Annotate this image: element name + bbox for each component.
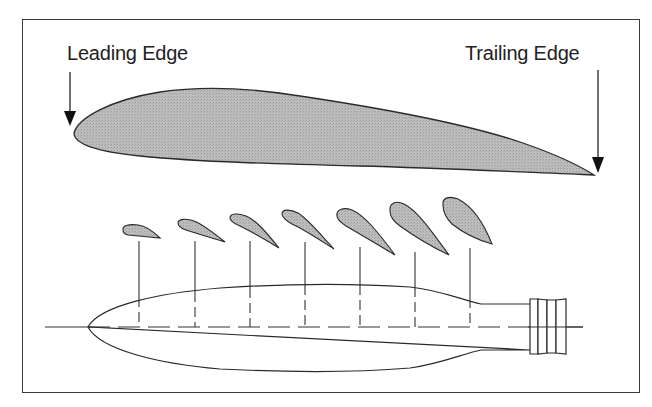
blade-section-2 bbox=[178, 219, 225, 242]
blade-section-7 bbox=[443, 197, 492, 244]
blade-section-1 bbox=[123, 225, 160, 238]
blade-sections bbox=[123, 197, 492, 255]
main-airfoil bbox=[74, 89, 594, 175]
blade-section-6 bbox=[390, 202, 449, 255]
blade-section-5 bbox=[337, 209, 395, 255]
leading-edge-arrow-icon bbox=[64, 72, 76, 126]
blade-section-4 bbox=[282, 210, 334, 249]
trailing-edge-arrow-icon bbox=[592, 70, 604, 173]
blade-planform-outline bbox=[88, 284, 530, 371]
diagram-canvas bbox=[0, 0, 652, 407]
blade-section-3 bbox=[230, 214, 279, 248]
